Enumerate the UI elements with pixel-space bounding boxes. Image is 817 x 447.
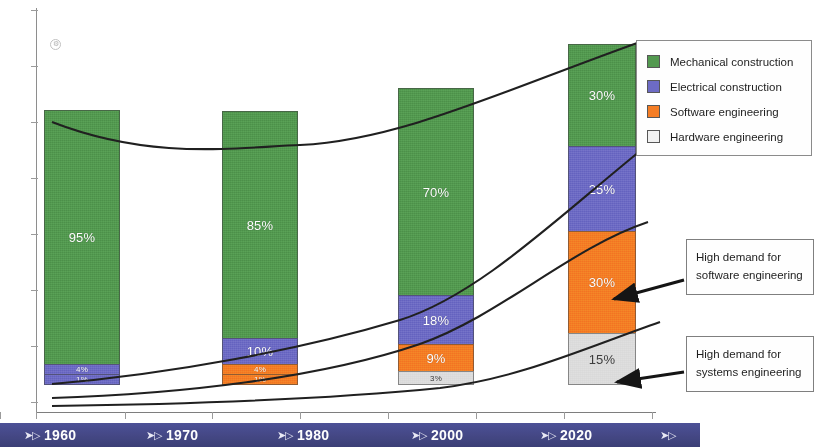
legend-item-label: Software engineering — [670, 106, 779, 118]
bar-segment-value: 4% — [76, 365, 88, 374]
bar-segment-software: 9% — [398, 344, 474, 372]
timeline-marker-icon: ➤▷ — [411, 429, 426, 442]
y-axis-tick — [31, 66, 38, 67]
legend-swatch-icon — [647, 105, 660, 118]
bar-segment-hardware: 15% — [568, 333, 636, 385]
x-axis-tick — [212, 412, 213, 419]
bar-segment-hardware: 3% — [398, 371, 474, 385]
timeline-marker-icon: ➤▷ — [540, 429, 555, 442]
annotation-line: High demand for — [696, 248, 804, 266]
timeline-item-1960: ➤▷ 1960 — [24, 426, 76, 444]
annotation-line: High demand for — [696, 345, 804, 363]
x-axis-tick — [388, 412, 389, 419]
legend-item-label: Mechanical construction — [670, 56, 793, 68]
bar-segment-value: 4% — [254, 365, 266, 374]
bar-segment-value: 85% — [247, 218, 274, 233]
y-axis-tick — [31, 10, 38, 11]
bar-segment-value: 1% — [254, 375, 266, 384]
y-axis-tick — [31, 402, 38, 403]
bar-segment-software: 30% — [568, 231, 636, 334]
legend-item-software: Software engineering — [647, 99, 803, 124]
x-axis-tick — [36, 412, 37, 419]
y-axis-tick — [31, 290, 38, 291]
bar-segment-value: 18% — [423, 313, 450, 328]
annotation-line: software engineering — [696, 266, 804, 284]
bar-segment-value: 15% — [589, 352, 616, 367]
legend-swatch-icon — [647, 55, 660, 68]
bar-segment-value: 3% — [430, 374, 442, 383]
timeline-marker-icon: ➤▷ — [277, 429, 292, 442]
y-axis — [36, 8, 37, 413]
legend-item-hardware: Hardware engineering — [647, 124, 803, 149]
axis-origin-mark: ⚙ — [50, 39, 61, 50]
legend-swatch-icon — [647, 130, 660, 143]
plot-area: ⚙ 95% 4% 1% 85% 10% 4% 1% — [0, 0, 817, 420]
timeline-label: 2000 — [431, 427, 463, 443]
timeline-marker-icon: ➤▷ — [24, 429, 39, 442]
bar-segment-value: 70% — [423, 185, 450, 200]
curve-electrical — [52, 143, 650, 384]
y-axis-tick — [31, 178, 38, 179]
bar-1960: 95% 4% 1% — [44, 111, 120, 385]
timeline-marker-icon: ➤▷ — [660, 429, 675, 442]
timeline-item-1980: ➤▷ 1980 — [277, 426, 329, 444]
annotation-line: systems engineering — [696, 363, 804, 381]
legend-item-label: Hardware engineering — [670, 131, 783, 143]
bar-segment-mechanical: 70% — [398, 88, 474, 296]
bar-segment-software: 1% — [44, 374, 120, 385]
legend-item-mechanical: Mechanical construction — [647, 49, 803, 74]
timeline-item-2000: ➤▷ 2000 — [411, 426, 463, 444]
x-axis-tick — [300, 412, 301, 419]
y-axis-tick — [31, 346, 38, 347]
bar-segment-value: 30% — [589, 88, 616, 103]
bar-segment-value: 9% — [426, 351, 445, 366]
bar-segment-electrical: 25% — [568, 146, 636, 232]
curve-mechanical — [52, 42, 640, 149]
bar-segment-value: 1% — [76, 375, 88, 384]
legend: Mechanical construction Electrical const… — [636, 40, 812, 156]
x-axis — [36, 412, 656, 413]
timeline-item-trailing: ➤▷ — [660, 426, 680, 444]
timeline-label: 1960 — [44, 427, 76, 443]
bar-segment-electrical: 10% — [222, 338, 298, 365]
bar-1980: 85% 10% 4% 1% — [222, 112, 298, 385]
bar-segment-hardware: 1% — [222, 374, 298, 385]
legend-item-label: Electrical construction — [670, 81, 782, 93]
x-axis-tick — [652, 412, 653, 419]
timeline-axis: ➤▷ 1960 ➤▷ 1970 ➤▷ 1980 ➤▷ 2000 ➤▷ 2020 … — [0, 423, 700, 447]
timeline-label: 2020 — [560, 427, 592, 443]
timeline-item-2020: ➤▷ 2020 — [540, 426, 592, 444]
annotation-software-demand: High demand for software engineering — [686, 239, 814, 295]
bar-segment-mechanical: 30% — [568, 44, 636, 147]
timeline-label: 1980 — [297, 427, 329, 443]
bar-segment-mechanical: 85% — [222, 111, 298, 339]
timeline-marker-icon: ➤▷ — [146, 429, 161, 442]
annotation-systems-demand: High demand for systems engineering — [686, 336, 814, 392]
timeline-label: 1970 — [166, 427, 198, 443]
y-axis-tick — [31, 234, 38, 235]
bar-segment-electrical: 18% — [398, 295, 474, 345]
curve-software — [52, 222, 648, 398]
x-axis-tick — [564, 412, 565, 419]
bar-segment-value: 25% — [589, 182, 616, 197]
bar-segment-value: 95% — [69, 230, 96, 245]
bar-segment-mechanical: 95% — [44, 110, 120, 365]
bar-segment-value: 30% — [589, 275, 616, 290]
bar-segment-value: 10% — [247, 344, 274, 359]
x-axis-tick — [476, 412, 477, 419]
timeline-item-1970: ➤▷ 1970 — [146, 426, 198, 444]
x-axis-tick — [125, 412, 126, 419]
legend-item-electrical: Electrical construction — [647, 74, 803, 99]
bar-2000: 70% 18% 9% 3% — [398, 89, 474, 385]
legend-swatch-icon — [647, 80, 660, 93]
chart-canvas: ⚙ 95% 4% 1% 85% 10% 4% 1% — [0, 0, 817, 447]
y-axis-tick — [31, 122, 38, 123]
x-axis-tick — [0, 412, 1, 419]
bar-2020: 30% 25% 30% 15% — [568, 45, 636, 385]
